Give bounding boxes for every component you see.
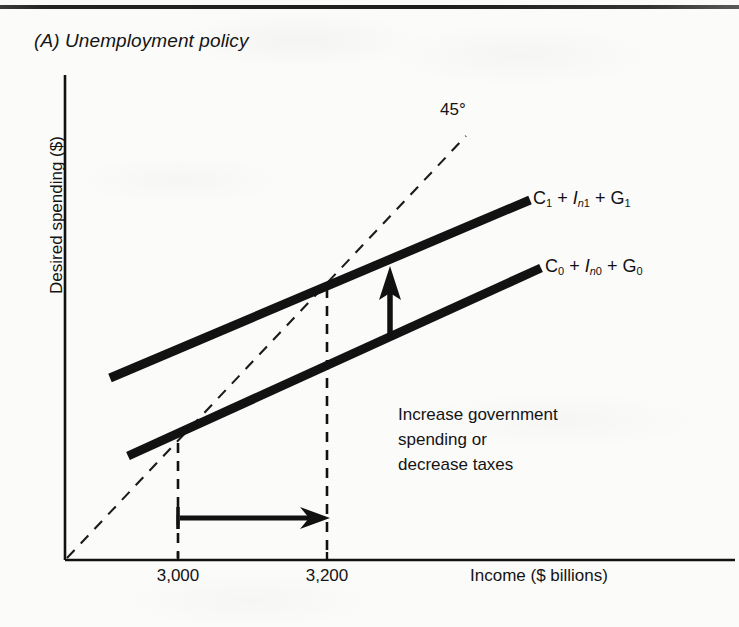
annotation-line-2: spending or [398, 427, 558, 452]
x-axis-label: Income ($ billions) [470, 566, 608, 586]
curve-c1-in1-g1 [110, 200, 530, 378]
annotation-line-3: decrease taxes [398, 452, 558, 477]
curve-label-c0-in0-g0: C0 + In0 + G0 [545, 256, 643, 277]
x-tick-label-3200: 3,200 [306, 566, 349, 586]
policy-annotation: Increase government spending or decrease… [398, 402, 558, 477]
forty-five-degree-line [67, 136, 466, 558]
curve-label-c1-text: C1 + In1 + G1 [533, 188, 631, 208]
curve-label-c0-text: C0 + In0 + G0 [545, 256, 643, 276]
chart-plot-area [0, 0, 739, 627]
curve-label-c1-in1-g1: C1 + In1 + G1 [533, 188, 631, 209]
income-increase-arrow [178, 507, 330, 529]
annotation-line-1: Increase government [398, 402, 558, 427]
figure-panel-a: (A) Unemployment policy Desired spending… [0, 0, 739, 627]
x-tick-label-3000: 3,000 [157, 566, 200, 586]
forty-five-degree-label: 45° [440, 100, 466, 120]
